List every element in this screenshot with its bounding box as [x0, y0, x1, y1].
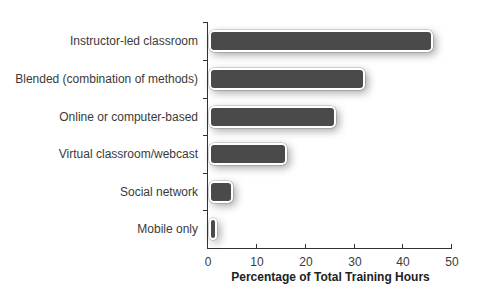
x-tick — [256, 244, 257, 249]
category-label: Mobile only — [137, 222, 198, 236]
bar — [209, 218, 217, 240]
x-axis — [207, 248, 452, 249]
x-tick — [207, 244, 208, 249]
category-label: Online or computer-based — [59, 110, 198, 124]
x-tick — [354, 244, 355, 249]
bar — [209, 30, 433, 52]
bar — [209, 143, 287, 165]
y-tick — [203, 135, 208, 136]
x-tick-label: 30 — [340, 255, 370, 269]
x-axis-title: Percentage of Total Training Hours — [208, 270, 453, 284]
x-tick-label: 10 — [242, 255, 272, 269]
category-label: Blended (combination of methods) — [15, 72, 198, 86]
y-tick — [203, 210, 208, 211]
bar — [209, 68, 365, 90]
x-tick-label: 0 — [193, 255, 223, 269]
horizontal-bar-chart: Instructor-led classroom Blended (combin… — [0, 0, 481, 296]
x-tick — [305, 244, 306, 249]
category-label: Social network — [120, 185, 198, 199]
category-label: Virtual classroom/webcast — [59, 147, 198, 161]
x-tick-label: 50 — [437, 255, 467, 269]
y-tick — [203, 173, 208, 174]
category-label: Instructor-led classroom — [70, 34, 198, 48]
y-tick — [203, 98, 208, 99]
bar — [209, 181, 233, 203]
y-tick — [203, 60, 208, 61]
x-tick — [451, 244, 452, 249]
x-tick-label: 40 — [388, 255, 418, 269]
x-tick — [402, 244, 403, 249]
bar — [209, 106, 336, 128]
x-tick-label: 20 — [291, 255, 321, 269]
y-tick — [203, 22, 208, 23]
